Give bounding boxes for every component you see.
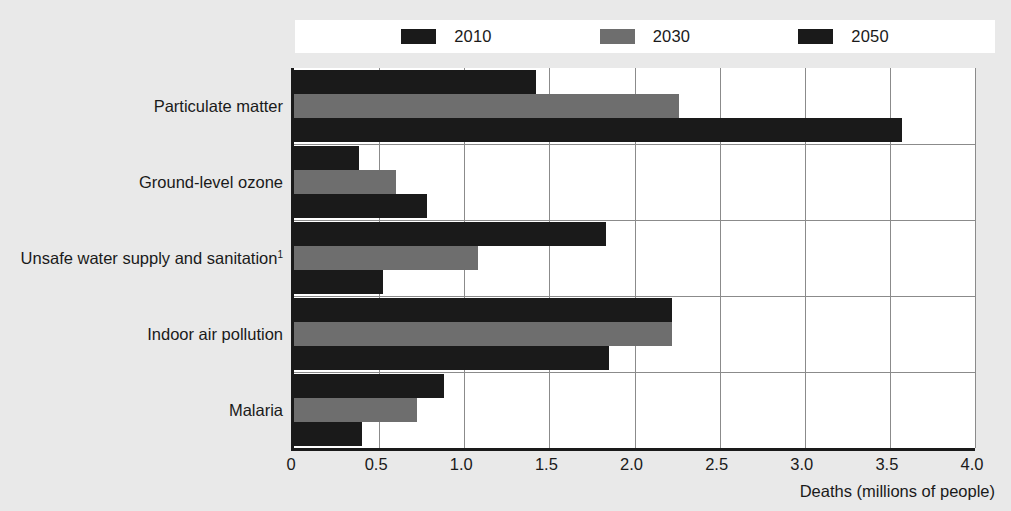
- bar: [294, 246, 478, 270]
- x-tick-label: 3.5: [875, 455, 898, 474]
- bar: [294, 170, 396, 194]
- x-axis-title: Deaths (millions of people): [800, 482, 995, 501]
- legend-swatch-2030: [600, 29, 635, 44]
- legend-item-2050: 2050: [798, 27, 889, 46]
- x-tick-label: 3.0: [790, 455, 813, 474]
- legend-item-2010: 2010: [401, 27, 492, 46]
- legend-item-2030: 2030: [600, 27, 691, 46]
- x-tick-label: 0.5: [365, 455, 388, 474]
- category-label: Unsafe water supply and sanitation1: [0, 250, 283, 267]
- x-tick-label: 1.0: [450, 455, 473, 474]
- footnote-marker: 1: [277, 249, 283, 260]
- group-separator: [294, 220, 975, 221]
- category-label: Malaria: [0, 402, 283, 419]
- bar: [294, 222, 606, 246]
- chart-legend: 2010 2030 2050: [295, 20, 995, 53]
- bar: [294, 298, 672, 322]
- bar: [294, 374, 444, 398]
- legend-label-2030: 2030: [653, 27, 691, 46]
- legend-label-2010: 2010: [454, 27, 492, 46]
- bar: [294, 146, 359, 170]
- category-label: Ground-level ozone: [0, 174, 283, 191]
- bar: [294, 94, 679, 118]
- bar: [294, 70, 536, 94]
- legend-label-2050: 2050: [851, 27, 889, 46]
- group-separator: [294, 144, 975, 145]
- bar-chart-figure: 2010 2030 2050 Particulate matterGround-…: [0, 0, 1011, 511]
- legend-swatch-2050: [798, 29, 833, 44]
- x-axis-tick-labels: 00.51.01.52.02.53.03.54.0: [0, 455, 1011, 481]
- bar: [294, 422, 362, 446]
- category-axis-labels: Particulate matterGround-level ozoneUnsa…: [0, 68, 283, 448]
- x-tick-label: 2.0: [620, 455, 643, 474]
- category-label: Particulate matter: [0, 98, 283, 115]
- x-tick-label: 2.5: [705, 455, 728, 474]
- bar: [294, 118, 902, 142]
- legend-swatch-2010: [401, 29, 436, 44]
- x-axis-line: [291, 448, 975, 451]
- plot-area: [291, 68, 975, 448]
- bar: [294, 270, 383, 294]
- bar: [294, 194, 427, 218]
- x-tick-label: 0: [286, 455, 295, 474]
- group-separator: [294, 296, 975, 297]
- bar: [294, 398, 417, 422]
- bar: [294, 346, 609, 370]
- x-tick-label: 1.5: [535, 455, 558, 474]
- bar: [294, 322, 672, 346]
- plot-inner: [294, 68, 975, 448]
- x-tick-label: 4.0: [961, 455, 984, 474]
- category-label: Indoor air pollution: [0, 326, 283, 343]
- group-separator: [294, 372, 975, 373]
- gridline: [975, 68, 976, 448]
